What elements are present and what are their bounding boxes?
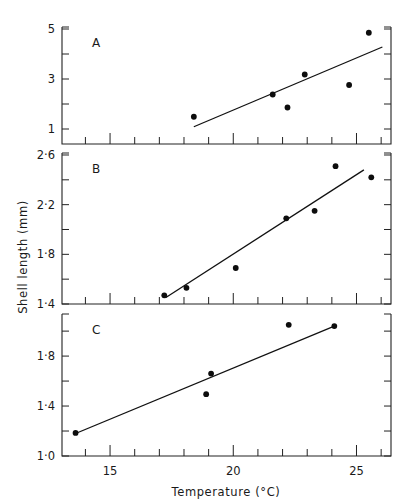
- y-tick-label: 2·2: [37, 198, 55, 212]
- y-tick-label: 1·8: [37, 349, 55, 363]
- data-point: [161, 292, 167, 298]
- y-tick-label: 1·0: [37, 449, 55, 463]
- axes-frame: [62, 27, 391, 144]
- data-point: [285, 105, 291, 111]
- data-point: [312, 208, 318, 214]
- panel-label: B: [92, 162, 100, 176]
- panel-a: 135A: [48, 22, 391, 144]
- panel-label: A: [92, 36, 101, 50]
- y-tick-label: 2·6: [37, 148, 55, 162]
- data-point: [368, 174, 374, 180]
- y-tick-label: 3: [48, 72, 55, 86]
- data-point: [270, 92, 276, 98]
- axes-frame: [62, 314, 391, 456]
- data-point: [286, 322, 292, 328]
- data-point: [333, 163, 339, 169]
- x-axis-label: Temperature (°C): [171, 485, 281, 499]
- x-tick-label: 15: [103, 464, 118, 478]
- data-point: [191, 114, 197, 120]
- axes-frame: [62, 153, 391, 304]
- regression-line: [166, 170, 364, 298]
- data-point: [203, 391, 209, 397]
- data-point: [233, 265, 239, 271]
- regression-line: [194, 47, 383, 127]
- x-tick-label: 20: [226, 464, 241, 478]
- panel-b: 1·41·82·22·6B: [37, 148, 391, 311]
- y-tick-label: 1·8: [37, 247, 55, 261]
- y-tick-label: 1·4: [37, 297, 55, 311]
- data-point: [346, 82, 352, 88]
- panel-c: 1·01·41·8C152025: [37, 314, 391, 478]
- data-point: [302, 72, 308, 78]
- y-axis-label: Shell length (mm): [16, 200, 30, 314]
- regression-line: [76, 326, 335, 433]
- x-tick-label: 25: [349, 464, 364, 478]
- data-point: [208, 371, 214, 377]
- figure: 135A 1·41·82·22·6B 1·01·41·8C152025 Temp…: [0, 0, 408, 502]
- data-point: [73, 430, 79, 436]
- y-tick-label: 1: [48, 122, 55, 136]
- data-point: [184, 285, 190, 291]
- data-point: [366, 30, 372, 36]
- data-point: [331, 323, 337, 329]
- data-point: [283, 215, 289, 221]
- y-tick-label: 5: [48, 22, 55, 36]
- chart-canvas: 135A 1·41·82·22·6B 1·01·41·8C152025 Temp…: [0, 0, 408, 502]
- y-tick-label: 1·4: [37, 399, 55, 413]
- panel-label: C: [92, 323, 100, 337]
